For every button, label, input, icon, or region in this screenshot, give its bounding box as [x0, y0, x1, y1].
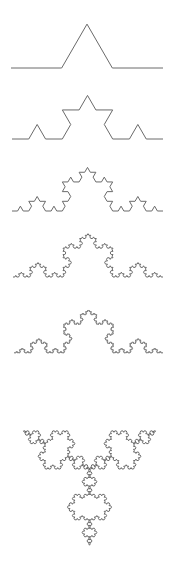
- koch-snowflake: [24, 431, 156, 545]
- koch-figure: [0, 0, 175, 575]
- koch-curve-iteration-4: [13, 234, 163, 277]
- koch-curve-iteration-2: [12, 95, 163, 139]
- koch-curve-iteration-3: [12, 167, 163, 211]
- koch-curve-iteration-5: [14, 310, 163, 353]
- koch-curve-iteration-1: [11, 24, 163, 68]
